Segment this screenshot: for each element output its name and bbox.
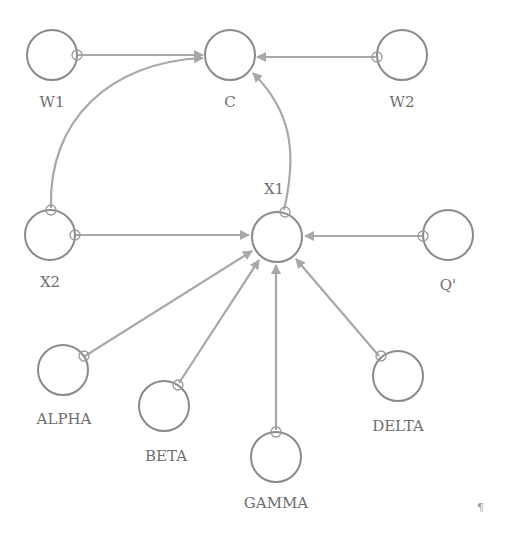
node-label: C	[224, 93, 235, 111]
node-beta[interactable]: BETA	[139, 380, 189, 465]
node-label: DELTA	[372, 417, 424, 435]
node-label: X2	[40, 273, 60, 291]
node-gamma[interactable]: GAMMA	[244, 427, 309, 512]
dependency-diagram: W1 C W2 X2 X1 Q' ALPHA BETA GAMMA	[0, 0, 506, 538]
edge-delta-x1[interactable]	[296, 259, 379, 356]
node-w2[interactable]: W2	[372, 30, 427, 111]
edge-x2-c[interactable]	[51, 58, 203, 208]
edge-alpha-x1[interactable]	[85, 251, 252, 356]
node-label: BETA	[145, 447, 187, 465]
edges	[51, 55, 422, 430]
node-q-prime[interactable]: Q'	[418, 210, 473, 294]
paragraph-mark-icon: ¶	[477, 501, 484, 514]
node-label: GAMMA	[244, 494, 309, 512]
edge-beta-x1[interactable]	[179, 260, 259, 383]
node-label: X1	[264, 180, 284, 198]
node-label: W1	[40, 93, 65, 111]
node-alpha[interactable]: ALPHA	[36, 345, 92, 428]
node-label: W2	[390, 93, 415, 111]
node-w1[interactable]: W1	[27, 30, 82, 111]
node-delta[interactable]: DELTA	[372, 351, 424, 435]
node-x2[interactable]: X2	[25, 205, 80, 291]
node-label: Q'	[440, 276, 456, 294]
node-c[interactable]: C	[205, 30, 255, 111]
node-x1[interactable]: X1	[252, 180, 302, 262]
node-label: ALPHA	[36, 410, 92, 428]
